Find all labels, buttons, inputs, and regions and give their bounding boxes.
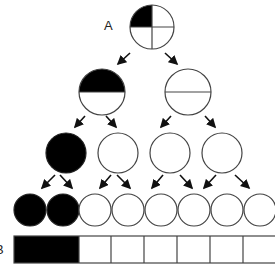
node-level1: [130, 5, 174, 49]
arrows-l1: [118, 53, 177, 64]
node-level2-right: [165, 69, 211, 115]
tree-diagram: A: [0, 0, 275, 270]
label-a: A: [104, 18, 113, 33]
node-level2-left: [79, 69, 125, 115]
bar-b: [14, 236, 275, 263]
label-b: B: [0, 242, 4, 257]
arrows-l3: [42, 175, 249, 188]
arrows-l2: [75, 116, 215, 127]
nodes-level4: [14, 194, 275, 226]
nodes-level3: [46, 133, 242, 173]
